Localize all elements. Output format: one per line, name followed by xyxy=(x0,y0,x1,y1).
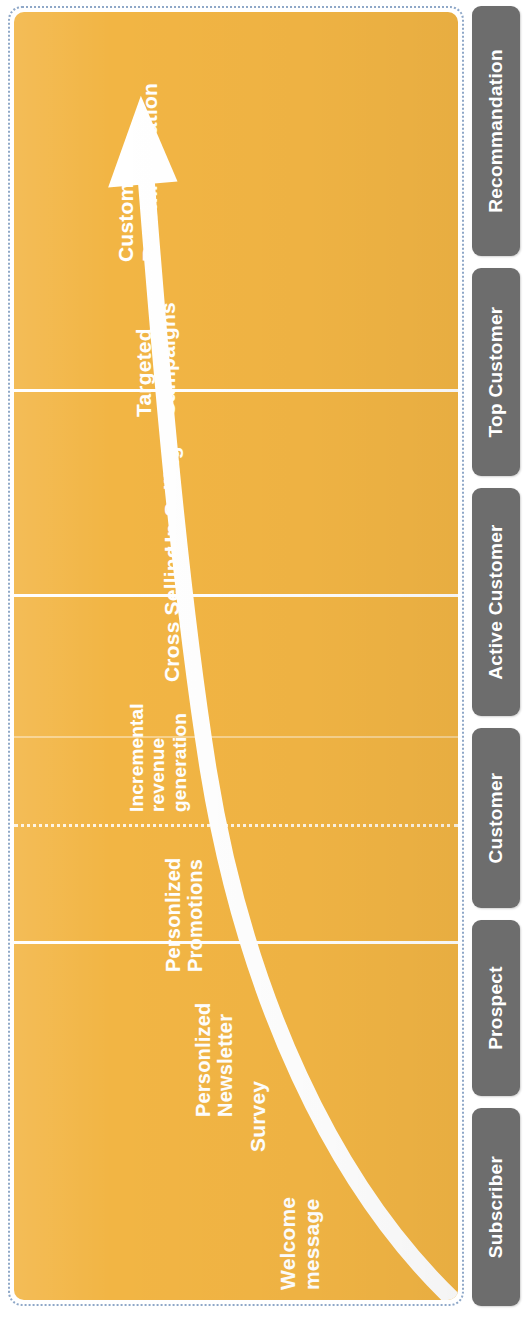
segment-chip-recommandation[interactable]: Recommandation xyxy=(472,6,520,256)
stage-label-incremental-revenue-generation: Incremental revenue generation xyxy=(126,703,190,812)
stage-label-targeted-campaigns: Targeted Campaigns xyxy=(132,302,179,417)
segment-chip-customer[interactable]: Customer xyxy=(472,728,520,908)
stage-divider-personlized-newsletter xyxy=(14,941,458,944)
journey-panel: Customer RecommandationTargeted Campaign… xyxy=(14,12,458,1300)
segment-chip-label: Subscriber xyxy=(485,1156,507,1258)
stage-label-customer-recommandation: Customer Recommandation xyxy=(114,83,161,262)
segment-chip-subscriber[interactable]: Subscriber xyxy=(472,1108,520,1306)
segment-chip-label: Recommandation xyxy=(485,49,507,213)
segment-chip-top-customer[interactable]: Top Customer xyxy=(472,268,520,476)
diagram-canvas: Customer RecommandationTargeted Campaign… xyxy=(0,0,528,1319)
stage-label-survey: Survey xyxy=(246,1081,270,1152)
stage-label-personlized-promotions: Personlized Promotions xyxy=(162,858,207,972)
segment-chip-label: Top Customer xyxy=(485,307,507,438)
stage-label-personlized-newsletter: Personlized Newsletter xyxy=(192,1003,237,1117)
segment-chip-label: Prospect xyxy=(485,966,507,1050)
segment-chip-prospect[interactable]: Prospect xyxy=(472,920,520,1096)
journey-panel-border: Customer RecommandationTargeted Campaign… xyxy=(8,6,464,1306)
stage-divider-personlized-promotions xyxy=(14,824,458,827)
segment-chip-label: Active Customer xyxy=(485,524,507,680)
stage-label-cross-selling: Cross Selling xyxy=(160,545,184,682)
stage-divider-cross-selling xyxy=(14,594,458,597)
stage-divider-incremental-revenue-generation xyxy=(14,736,458,738)
segment-chip-label: Customer xyxy=(485,772,507,863)
stage-divider-targeted-campaigns xyxy=(14,389,458,392)
stage-label-up-selling: Up-Selling xyxy=(160,446,184,552)
segment-chip-active-customer[interactable]: Active Customer xyxy=(472,488,520,716)
stage-label-welcome-message: Welcome message xyxy=(276,1197,323,1290)
